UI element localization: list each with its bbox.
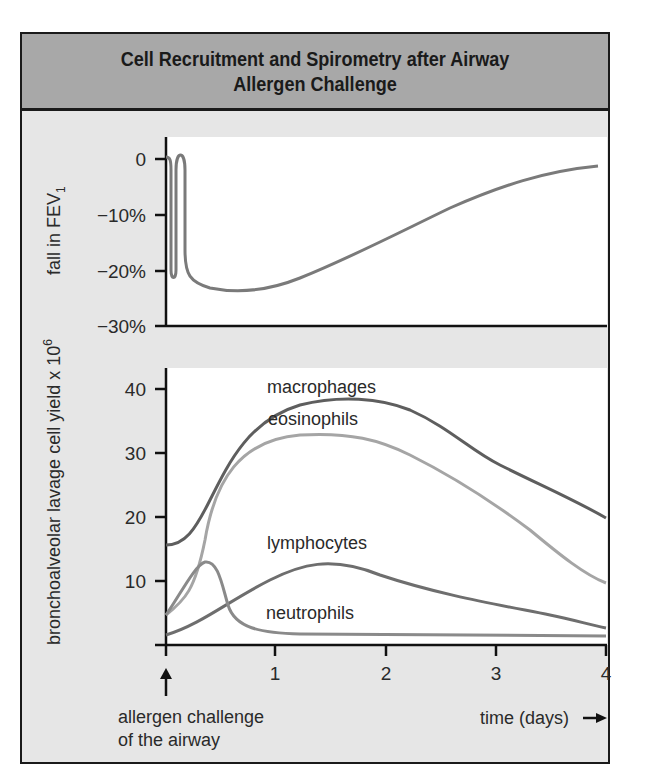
bottom-y-tick-labels: 40 30 20 10 <box>125 379 146 592</box>
challenge-annotation: allergen challenge of the airway <box>118 707 264 750</box>
top-y-tick-labels: 0 −10% −20% −30% <box>97 149 146 337</box>
top-plot-area <box>166 137 607 326</box>
time-arrow-icon <box>583 713 607 723</box>
ytick-label: 20 <box>125 507 146 528</box>
macrophages-label: macrophages <box>267 377 376 397</box>
xtick-label: 3 <box>491 663 502 684</box>
ytick-label: 40 <box>125 379 146 400</box>
challenge-label-line-2: of the airway <box>118 730 220 750</box>
ytick-label: 30 <box>125 443 146 464</box>
challenge-arrow-icon <box>160 668 172 696</box>
x-tick-labels: 1 2 3 4 <box>270 663 612 684</box>
ytick-label: −30% <box>97 316 146 337</box>
bottom-y-axis-label: bronchoalveolar lavage cell yield x 106 <box>41 339 64 645</box>
xtick-label: 2 <box>381 663 392 684</box>
ytick-label: −10% <box>97 205 146 226</box>
xtick-label: 4 <box>601 663 612 684</box>
lymphocytes-label: lymphocytes <box>267 533 367 553</box>
bottom-plot-area <box>166 368 607 646</box>
top-y-axis-label: fall in FEV1 <box>44 186 68 275</box>
x-axis-label: time (days) <box>480 708 569 728</box>
challenge-label-line-1: allergen challenge <box>118 707 264 727</box>
chart-canvas: 0 −10% −20% −30% fall in FEV1 40 30 20 1… <box>0 0 663 781</box>
ytick-label: 10 <box>125 571 146 592</box>
ytick-label: −20% <box>97 261 146 282</box>
eosinophils-label: eosinophils <box>268 409 358 429</box>
ytick-label: 0 <box>135 149 146 170</box>
neutrophils-label: neutrophils <box>266 603 354 623</box>
xtick-label: 1 <box>270 663 281 684</box>
